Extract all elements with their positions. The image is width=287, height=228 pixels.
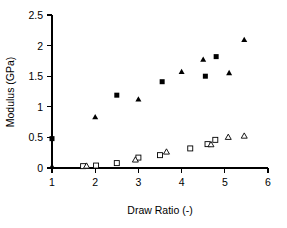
x-tick-label: 3 [135, 176, 141, 188]
data-point-open-square [94, 163, 99, 168]
y-tick-label: 1 [37, 101, 43, 113]
x-tick-label: 1 [49, 176, 55, 188]
y-tick-labels: 00.511.522.5 [28, 9, 43, 174]
data-point-filled-square [114, 93, 119, 98]
data-point-filled-triangle [49, 164, 55, 169]
data-point-filled-triangle [179, 69, 185, 74]
y-tick-label: 2 [37, 40, 43, 52]
x-tick-labels: 123456 [49, 176, 271, 188]
data-point-open-triangle [163, 149, 169, 154]
y-tick-label: 0 [37, 162, 43, 174]
x-tick-label: 6 [265, 176, 271, 188]
y-axis-title: Modulus (GPa) [4, 57, 16, 128]
data-point-open-square [158, 153, 163, 158]
y-tick-label: 1.5 [28, 70, 43, 82]
data-point-filled-triangle [200, 56, 206, 61]
axis-ticks [47, 15, 268, 173]
y-tick-label: 0.5 [28, 131, 43, 143]
data-point-open-square [114, 161, 119, 166]
data-point-open-triangle [241, 133, 247, 138]
data-point-open-square [213, 137, 218, 142]
scatter-plot: 123456 00.511.522.5 Draw Ratio (-) Modul… [0, 0, 287, 228]
x-tick-label: 2 [92, 176, 98, 188]
data-point-open-square [188, 146, 193, 151]
x-tick-label: 4 [179, 176, 185, 188]
x-tick-label: 5 [222, 176, 228, 188]
data-point-filled-triangle [226, 70, 232, 75]
data-point-filled-triangle [135, 96, 141, 101]
y-tick-label: 2.5 [28, 9, 43, 21]
data-point-filled-square [50, 136, 55, 141]
data-point-filled-square [214, 54, 219, 59]
data-point-filled-square [160, 79, 165, 84]
data-point-filled-triangle [241, 37, 247, 42]
data-point-filled-triangle [92, 114, 98, 119]
axes [52, 15, 268, 168]
data-point-filled-square [203, 74, 208, 79]
chart-container: 123456 00.511.522.5 Draw Ratio (-) Modul… [0, 0, 287, 228]
data-point-open-triangle [225, 134, 231, 139]
x-axis-title: Draw Ratio (-) [127, 204, 192, 216]
data-markers [49, 37, 247, 169]
